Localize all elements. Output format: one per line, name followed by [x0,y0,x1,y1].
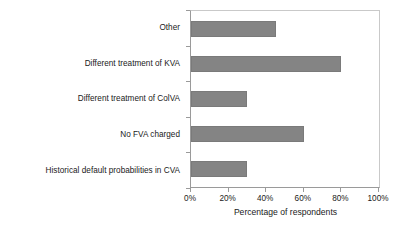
x-axis-title: Percentage of respondents [190,207,381,217]
bar-row [191,11,379,46]
bar-row [191,117,379,152]
x-axis-tick-label: 40% [257,193,273,204]
bar-chart-figure: Other Different treatment of KVA Differe… [0,0,405,236]
x-axis-tick-label: 20% [219,193,235,204]
category-label-row: Other [0,10,186,46]
bar-row [191,81,379,116]
x-axis-tick-label: 0% [184,193,196,204]
category-label-row: No FVA charged [0,117,186,153]
category-label-colva: Different treatment of ColVA [78,94,180,103]
category-label-row: Different treatment of ColVA [0,81,186,117]
category-label-historical-default: Historical default probabilities in CVA [46,166,180,175]
category-label-other: Other [159,23,180,32]
category-axis: Other Different treatment of KVA Differe… [0,10,186,188]
category-label-no-fva: No FVA charged [120,130,180,139]
category-label-row: Historical default probabilities in CVA [0,152,186,188]
plot-area [190,10,380,188]
bar-colva [191,91,247,107]
x-axis-tick-label: 60% [295,193,311,204]
x-axis-tick [340,188,341,192]
bar-row [191,152,379,187]
x-axis-tick [265,188,266,192]
bar-no-fva [191,126,304,142]
bars-layer [191,11,379,187]
x-axis-tick [378,188,379,192]
x-axis-tick-label: 80% [332,193,348,204]
bar-other [191,21,276,37]
x-axis-tick-label: 100% [368,193,389,204]
category-label-row: Different treatment of KVA [0,46,186,82]
category-label-kva: Different treatment of KVA [85,59,180,68]
x-axis-tick [228,188,229,192]
x-axis-tick [190,188,191,192]
bar-kva [191,56,341,72]
bar-historical-default [191,161,247,177]
x-axis-tick-labels: 0%20%40%60%80%100% [190,193,381,205]
x-axis-tick [303,188,304,192]
bar-row [191,46,379,81]
